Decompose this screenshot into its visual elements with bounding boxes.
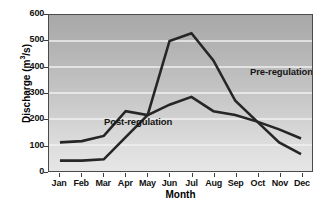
x-tick-label: Dec — [294, 178, 310, 188]
x-tick-mark — [236, 173, 237, 177]
x-tick-mark — [125, 173, 126, 177]
x-tick-mark — [302, 173, 303, 177]
annotation-pre-regulation: Pre-regulation — [250, 66, 313, 77]
y-tick-label: 0 — [0, 167, 44, 176]
x-tick-mark — [59, 173, 60, 177]
y-axis-title: Discharge (m3/s) — [21, 14, 32, 154]
x-tick-label: May — [139, 178, 156, 188]
x-tick-label: Jan — [52, 178, 67, 188]
y-axis-title-tail: /s) — [21, 44, 32, 56]
x-axis-tick-labels: JanFebMarAprMayJunJulAugSepOctNovDec — [48, 175, 313, 189]
x-axis-title: Month — [48, 189, 313, 200]
x-tick-mark — [147, 173, 148, 177]
y-axis-title-base: Discharge (m — [21, 60, 32, 123]
x-tick-mark — [280, 173, 281, 177]
x-tick-mark — [81, 173, 82, 177]
x-tick-label: Sep — [228, 178, 244, 188]
x-tick-mark — [258, 173, 259, 177]
y-tick-mark — [44, 172, 48, 173]
x-tick-label: Apr — [118, 178, 133, 188]
x-tick-label: Jul — [185, 178, 197, 188]
x-tick-label: Feb — [73, 178, 88, 188]
discharge-line-chart: 0100200300400500600 Discharge (m3/s) Pos… — [0, 0, 332, 215]
x-tick-mark — [192, 173, 193, 177]
x-tick-mark — [214, 173, 215, 177]
x-tick-label: Mar — [96, 178, 111, 188]
x-tick-mark — [103, 173, 104, 177]
annotation-post-regulation: Post-regulation — [104, 116, 172, 127]
x-tick-mark — [169, 173, 170, 177]
x-tick-label: Nov — [272, 178, 288, 188]
y-axis-title-exponent: 3 — [19, 56, 26, 60]
plot-area: Post-regulation Pre-regulation — [48, 14, 313, 172]
data-series-layer — [49, 15, 312, 171]
x-tick-label: Aug — [205, 178, 222, 188]
x-tick-label: Oct — [251, 178, 265, 188]
x-tick-label: Jun — [162, 178, 177, 188]
